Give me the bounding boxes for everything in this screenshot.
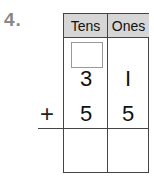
addend1-tens: 3 xyxy=(64,66,108,92)
addend1-ones: I xyxy=(107,66,149,92)
tens-header: Tens xyxy=(64,14,108,38)
answer-tens[interactable] xyxy=(64,134,108,172)
place-value-table: Tens Ones 3 I 5 5 xyxy=(63,13,149,173)
ones-header: Ones xyxy=(108,14,149,38)
answer-ones[interactable] xyxy=(107,134,149,172)
plus-sign: + xyxy=(40,100,54,128)
addend2-tens: 5 xyxy=(64,101,108,127)
question-number: 4. xyxy=(4,9,22,31)
regroup-box[interactable] xyxy=(71,42,103,68)
sum-line xyxy=(38,128,149,129)
addend2-ones: 5 xyxy=(107,101,149,127)
